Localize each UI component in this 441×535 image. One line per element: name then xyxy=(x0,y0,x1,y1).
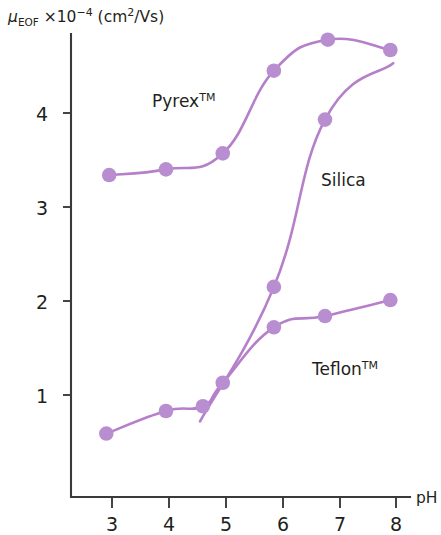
data-point xyxy=(267,320,282,335)
y-axis-title-mid: ×10 xyxy=(39,8,77,26)
x-tick-label-8: 8 xyxy=(390,513,402,535)
series-label-pyrex: PyrexTM xyxy=(152,91,215,111)
data-point xyxy=(267,280,282,295)
x-tick-label-6: 6 xyxy=(277,513,289,535)
y-tick-label-4: 4 xyxy=(36,103,48,125)
y-axis-title-unit-close: /Vs) xyxy=(134,8,164,26)
y-tick-label-2: 2 xyxy=(36,291,48,313)
x-tick-label-5: 5 xyxy=(220,513,232,535)
y-tick-marks xyxy=(63,113,71,395)
data-point xyxy=(196,399,211,414)
series-pyrex xyxy=(102,32,398,182)
series-label-teflon-text: Teflon xyxy=(311,359,362,379)
y-tick-label-3: 3 xyxy=(36,197,48,219)
x-tick-label-7: 7 xyxy=(334,513,346,535)
data-point xyxy=(267,63,282,78)
chart-svg: μEOF ×10−4 (cm2/Vs) 4 3 2 1 3 4 5 6 xyxy=(0,0,441,535)
data-point xyxy=(318,112,333,127)
data-point xyxy=(99,426,114,441)
y-axis-title: μEOF ×10−4 (cm2/Vs) xyxy=(7,6,164,28)
y-axis-title-sub: EOF xyxy=(18,16,39,28)
data-point xyxy=(215,146,230,161)
y-tick-label-1: 1 xyxy=(36,385,48,407)
y-axis-title-mu: μ xyxy=(7,8,18,26)
data-point xyxy=(383,293,398,308)
x-tick-marks xyxy=(112,497,396,508)
x-tick-label-4: 4 xyxy=(163,513,175,535)
y-axis-title-unit-open: (cm xyxy=(93,8,128,26)
data-point xyxy=(159,404,174,419)
x-axis-title: pH xyxy=(416,489,438,507)
data-point xyxy=(215,375,230,390)
plot-layer xyxy=(99,32,398,440)
series-label-silica: Silica xyxy=(321,170,366,190)
series-label-teflon: TeflonTM xyxy=(311,359,378,379)
data-point xyxy=(102,168,117,183)
y-axis-title-exp: −4 xyxy=(76,6,92,19)
data-point xyxy=(318,309,333,324)
series-label-pyrex-tm: TM xyxy=(198,91,215,104)
data-point xyxy=(321,32,336,47)
x-tick-label-3: 3 xyxy=(106,513,118,535)
eof-mobility-chart: μEOF ×10−4 (cm2/Vs) 4 3 2 1 3 4 5 6 xyxy=(0,0,441,535)
series-label-pyrex-text: Pyrex xyxy=(152,91,199,111)
series-label-teflon-tm: TM xyxy=(361,359,378,372)
data-point xyxy=(383,43,398,58)
y-axis-title-unit-sup: 2 xyxy=(127,6,134,19)
data-point xyxy=(159,162,174,177)
